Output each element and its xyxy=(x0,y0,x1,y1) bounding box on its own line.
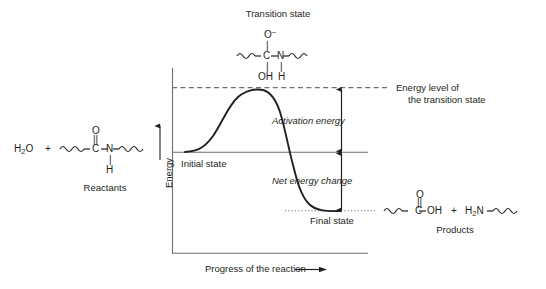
y-axis-label: Energy xyxy=(163,158,174,188)
energy-level-line-2: the transition state xyxy=(396,94,486,106)
products-plus: + xyxy=(451,206,457,216)
reactants-caption: Reactants xyxy=(50,182,160,193)
reactants-squiggle-left xyxy=(60,147,90,152)
initial-state-label: Initial state xyxy=(181,158,226,169)
products-caption: Products xyxy=(410,224,500,235)
products-squiggle-right xyxy=(487,209,517,214)
products-atom-c: C xyxy=(415,206,422,216)
diagram-vector-layer xyxy=(0,0,546,289)
transition-squiggle-right xyxy=(283,54,307,59)
transition-atom-c: C xyxy=(263,51,270,61)
net-energy-change-label: Net energy change xyxy=(272,175,352,186)
activation-energy-label: Activation energy xyxy=(272,115,345,126)
reactants-squiggle-right xyxy=(113,147,143,152)
reactants-plus: + xyxy=(45,144,51,154)
final-state-label: Final state xyxy=(310,215,354,226)
reactants-atom-n: N xyxy=(106,144,113,154)
transition-squiggle-left xyxy=(237,54,261,59)
reactants-atom-c: C xyxy=(92,144,99,154)
transition-atom-n: N xyxy=(277,51,284,61)
transition-o-minus: O− xyxy=(264,28,276,40)
energy-profile-curve xyxy=(185,89,340,211)
products-amine-group: H2N xyxy=(465,206,484,219)
products-squiggle-left xyxy=(384,209,408,214)
reaction-energy-diagram-figure: Transition state O− | C N | | OH H H2O +… xyxy=(0,0,546,289)
x-axis-label: Progress of the reaction xyxy=(205,263,306,274)
reactants-atom-h: H xyxy=(106,165,113,175)
transition-state-energy-level-label: Energy level of the transition state xyxy=(396,82,486,106)
transition-oh-group: OH xyxy=(258,72,273,82)
energy-level-line-1: Energy level of xyxy=(396,82,459,93)
products-oh-group: OH xyxy=(427,206,442,216)
transition-state-title: Transition state xyxy=(218,8,338,19)
transition-h-atom: H xyxy=(278,72,285,82)
reactant-water: H2O xyxy=(14,144,33,157)
